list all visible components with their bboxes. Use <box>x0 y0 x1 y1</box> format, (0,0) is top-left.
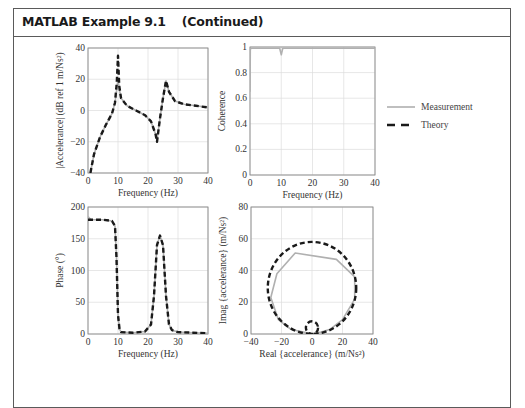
x-tick-label: 40 <box>203 176 213 186</box>
x-axis-label: Frequency (Hz) <box>118 188 178 199</box>
y-tick-label: 0.8 <box>235 68 247 78</box>
x-tick-label: 10 <box>113 176 123 186</box>
y-tick-label: −40 <box>70 168 85 178</box>
x-tick-label: 30 <box>173 337 183 347</box>
theory-curve <box>90 56 208 173</box>
y-tick-label: 0 <box>80 329 85 339</box>
x-tick-label: 40 <box>370 178 380 188</box>
x-tick-label: 0 <box>310 337 315 347</box>
legend-label: Theory <box>421 120 449 130</box>
x-tick-label: 20 <box>308 178 318 188</box>
phase-chart: 010203040050100150200Frequency (Hz)Phase… <box>55 202 213 360</box>
nyquist-chart: −40−2002040020406080Real {accelerance} (… <box>218 202 378 360</box>
y-tick-label: 0 <box>80 106 85 116</box>
x-tick-label: 0 <box>86 176 91 186</box>
x-axis-label: Real {accelerance} (m/Ns²) <box>259 349 364 360</box>
y-tick-label: 150 <box>71 234 86 244</box>
x-axis-label: Frequency (Hz) <box>118 349 178 360</box>
y-tick-label: 0 <box>242 170 247 180</box>
legend: MeasurementTheory <box>387 102 473 130</box>
y-tick-label: 80 <box>239 202 249 212</box>
measurement-curve <box>271 253 355 334</box>
y-axis-label: Coherence <box>217 91 227 132</box>
y-tick-label: 1 <box>242 42 247 52</box>
x-tick-label: 20 <box>143 176 153 186</box>
y-tick-label: 40 <box>76 43 86 53</box>
x-tick-label: 30 <box>173 176 183 186</box>
y-axis-label: Imag {accelerance} (m/Ns²) <box>218 217 229 324</box>
x-tick-label: 0 <box>248 178 253 188</box>
measurement-curve <box>90 79 208 173</box>
y-tick-label: −20 <box>70 137 85 147</box>
x-tick-label: 10 <box>277 178 287 188</box>
x-tick-label: 30 <box>339 178 349 188</box>
x-tick-label: 40 <box>368 337 378 347</box>
y-tick-label: 50 <box>76 297 86 307</box>
x-tick-label: 20 <box>338 337 348 347</box>
y-tick-label: 0.4 <box>235 119 247 129</box>
x-tick-label: −20 <box>274 337 289 347</box>
y-tick-label: 40 <box>239 266 249 276</box>
y-axis-label: |Accelerance| (dB ref 1 m/Ns²) <box>55 52 66 168</box>
y-tick-label: 60 <box>239 234 249 244</box>
x-tick-label: 20 <box>143 337 153 347</box>
legend-label: Measurement <box>421 102 473 112</box>
y-tick-label: 100 <box>71 266 86 276</box>
accelerance-magnitude-chart: 010203040−40−2002040Frequency (Hz)|Accel… <box>55 43 213 199</box>
coherence-chart: 01020304000.20.40.60.81Frequency (Hz)Coh… <box>217 42 380 201</box>
x-axis-label: Frequency (Hz) <box>283 190 343 201</box>
y-tick-label: 0.2 <box>235 144 247 154</box>
y-tick-label: 0 <box>243 329 248 339</box>
y-axis-label: Phase (°) <box>55 253 66 288</box>
x-tick-label: 40 <box>203 337 213 347</box>
y-tick-label: 200 <box>71 202 86 212</box>
x-tick-label: 10 <box>113 337 123 347</box>
y-tick-label: 20 <box>239 297 249 307</box>
y-tick-label: 0.6 <box>235 93 247 103</box>
x-tick-label: 0 <box>86 337 91 347</box>
y-tick-label: 20 <box>76 74 86 84</box>
